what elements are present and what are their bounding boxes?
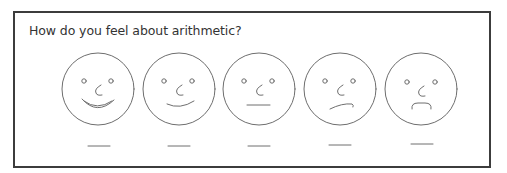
face-neutral-icon[interactable]: [223, 53, 295, 125]
face-happy-icon[interactable]: [143, 53, 215, 125]
face-very-happy-icon[interactable]: [62, 53, 134, 125]
face-unhappy-icon[interactable]: [304, 53, 376, 125]
face-very-unhappy-icon[interactable]: [385, 53, 457, 125]
